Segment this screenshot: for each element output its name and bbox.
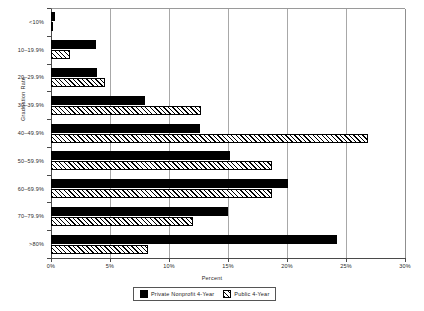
- legend-item: Private Nonprofit 4-Year: [140, 290, 214, 298]
- x-tick-label: 15%: [213, 263, 243, 269]
- bar-solid: [51, 179, 288, 188]
- x-tick: [346, 258, 347, 262]
- chart-legend: Private Nonprofit 4-YearPublic 4-Year: [133, 287, 276, 301]
- y-tick: [47, 8, 51, 9]
- y-tick-label: 30–39.9%: [0, 102, 44, 108]
- bar-hatch: [51, 134, 368, 143]
- y-tick: [47, 91, 51, 92]
- bar-hatch: [51, 78, 105, 87]
- y-tick: [47, 147, 51, 148]
- y-tick: [47, 258, 51, 259]
- bar-solid: [51, 151, 230, 160]
- legend-label: Private Nonprofit 4-Year: [151, 291, 214, 297]
- bar-hatch: [51, 50, 70, 59]
- y-tick-label: 20–29.9%: [0, 74, 44, 80]
- bar-solid: [51, 124, 200, 133]
- bar-hatch: [51, 217, 193, 226]
- legend-item: Public 4-Year: [223, 290, 269, 298]
- bar-hatch: [51, 189, 272, 198]
- x-tick: [110, 258, 111, 262]
- bar-hatch: [51, 22, 53, 31]
- y-tick: [47, 36, 51, 37]
- x-tick-label: 30%: [390, 263, 420, 269]
- y-tick-label: <10%: [0, 19, 44, 25]
- bar-solid: [51, 40, 96, 49]
- x-tick: [287, 258, 288, 262]
- y-tick: [47, 230, 51, 231]
- legend-label: Public 4-Year: [234, 291, 269, 297]
- bar-hatch: [51, 161, 272, 170]
- y-tick-label: 40–49.9%: [0, 130, 44, 136]
- x-tick-label: 20%: [272, 263, 302, 269]
- legend-swatch-solid-icon: [140, 290, 148, 298]
- bar-solid: [51, 12, 55, 21]
- x-tick-label: 10%: [154, 263, 184, 269]
- y-tick-label: >80%: [0, 241, 44, 247]
- x-tick-label: 0%: [36, 263, 66, 269]
- bar-hatch: [51, 245, 148, 254]
- y-tick-label: 70–79.9%: [0, 213, 44, 219]
- y-tick: [47, 175, 51, 176]
- y-tick-label: 10–19.9%: [0, 47, 44, 53]
- bar-hatch: [51, 106, 201, 115]
- bar-solid: [51, 235, 337, 244]
- y-tick: [47, 202, 51, 203]
- y-tick: [47, 119, 51, 120]
- x-tick-label: 25%: [331, 263, 361, 269]
- x-tick: [228, 258, 229, 262]
- x-tick-label: 5%: [95, 263, 125, 269]
- x-tick: [169, 258, 170, 262]
- bar-chart: Graduation Rate 0%5%10%15%20%25%30% <10%…: [0, 0, 424, 311]
- legend-swatch-hatch-icon: [223, 290, 231, 298]
- gridline: [405, 9, 406, 258]
- bar-solid: [51, 68, 97, 77]
- bar-solid: [51, 96, 145, 105]
- y-tick-label: 60–69.9%: [0, 186, 44, 192]
- x-tick: [405, 258, 406, 262]
- y-tick-label: 50–59.9%: [0, 158, 44, 164]
- y-tick: [47, 64, 51, 65]
- bar-solid: [51, 207, 228, 216]
- x-tick: [51, 258, 52, 262]
- x-axis-title: Percent: [0, 275, 424, 281]
